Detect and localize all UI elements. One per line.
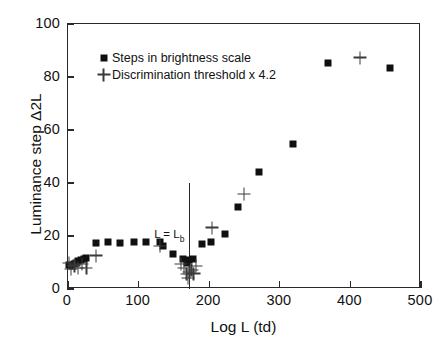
y-axis-tick-label: 80: [43, 68, 60, 84]
x-axis-tick: [67, 281, 68, 288]
square-marker-icon: [95, 50, 112, 65]
legend-label: Discrimination threshold x 4.2: [112, 68, 276, 82]
data-point-threshold: [90, 249, 103, 262]
y-axis-tick-label: 0: [52, 280, 60, 296]
data-point-steps: [221, 230, 228, 237]
y-axis-tick-label: 20: [43, 227, 60, 243]
y-axis-tick-label: 60: [43, 121, 60, 137]
data-point-steps: [235, 203, 242, 210]
data-point-threshold: [206, 221, 219, 234]
y-axis-tick-label: 40: [43, 174, 60, 190]
x-axis-tick: [279, 281, 280, 288]
data-point-threshold: [237, 188, 250, 201]
data-point-steps: [143, 239, 150, 246]
data-point-steps: [255, 168, 262, 175]
y-axis-tick-label: 100: [35, 15, 60, 31]
data-point-steps: [324, 60, 331, 67]
legend-label: Steps in brightness scale: [112, 51, 251, 65]
x-axis-tick-label: 400: [337, 292, 362, 308]
data-point-threshold: [189, 260, 202, 273]
x-axis-tick-label: 500: [408, 292, 433, 308]
data-point-steps: [104, 239, 111, 246]
legend-item-steps: Steps in brightness scale: [95, 50, 276, 65]
data-point-steps: [386, 65, 393, 72]
x-axis-tick-label: 100: [125, 292, 150, 308]
y-axis-tick: [67, 129, 74, 130]
y-axis-tick: [67, 288, 74, 289]
y-axis-tick: [67, 23, 74, 24]
x-axis-tick-label: 300: [266, 292, 291, 308]
plus-marker-icon: [95, 67, 112, 82]
data-point-steps: [199, 240, 206, 247]
legend-item-threshold: Discrimination threshold x 4.2: [95, 67, 276, 82]
data-point-steps: [289, 140, 296, 147]
data-point-threshold: [354, 51, 367, 64]
data-point-steps: [170, 250, 177, 257]
y-axis-tick: [67, 76, 74, 77]
data-point-threshold: [80, 261, 93, 274]
figure: Luminance step Δ2L Log L (td) L = Lb Ste…: [0, 0, 443, 350]
x-axis-tick-label: 0: [63, 292, 71, 308]
x-axis-tick: [350, 281, 351, 288]
data-point-steps: [117, 239, 124, 246]
data-point-threshold: [153, 239, 166, 252]
data-point-steps: [130, 239, 137, 246]
y-axis-tick: [67, 235, 74, 236]
y-axis-tick: [67, 182, 74, 183]
x-axis-tick: [209, 281, 210, 288]
x-axis-tick: [138, 281, 139, 288]
y-axis-title: Luminance step Δ2L: [27, 49, 45, 279]
x-axis-title: Log L (td): [67, 318, 420, 336]
chart-legend: Steps in brightness scale Discrimination…: [95, 50, 276, 84]
data-point-steps: [93, 240, 100, 247]
x-axis-tick-label: 200: [196, 292, 221, 308]
data-point-steps: [208, 239, 215, 246]
x-axis-tick: [420, 281, 421, 288]
